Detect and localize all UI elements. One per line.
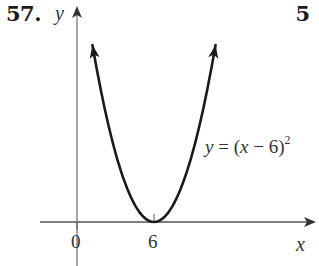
parabola-curve — [92, 45, 215, 222]
function-annotation: y = (x − 6)2 — [205, 135, 290, 158]
graph-plot — [0, 0, 319, 266]
eq-exponent: 2 — [284, 133, 290, 147]
x-tick-label-6: 6 — [148, 231, 158, 253]
y-axis-label: y — [55, 2, 64, 25]
eq-equals: = ( — [213, 136, 240, 157]
eq-rest: − 6) — [248, 136, 284, 157]
x-tick-label-0: 0 — [71, 231, 81, 253]
x-axis-label: x — [296, 233, 305, 256]
